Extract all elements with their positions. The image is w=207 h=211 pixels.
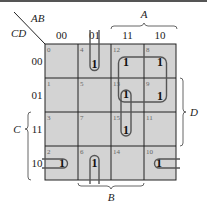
cell-index: 14	[113, 148, 121, 156]
cell-index: 7	[80, 114, 84, 122]
cell-index: 8	[146, 46, 150, 54]
cell-index: 6	[80, 148, 84, 156]
cell-index: 11	[146, 114, 153, 122]
cell-index: 5	[80, 80, 84, 88]
cell-index: 3	[47, 114, 51, 122]
col-header-10: 10	[155, 29, 167, 41]
col-header-11: 11	[122, 29, 133, 41]
row-header-00: 00	[32, 55, 44, 67]
label-b: B	[108, 191, 115, 203]
brace-b	[78, 183, 144, 189]
row-header-11: 11	[32, 123, 43, 135]
cell-index: 2	[47, 148, 51, 156]
brace-a	[111, 23, 177, 29]
cell-index: 13	[113, 80, 121, 88]
label-d: D	[189, 106, 198, 118]
col-header-00: 00	[56, 29, 68, 41]
cell-index: 15	[113, 114, 121, 122]
cell-value: 1	[92, 156, 98, 170]
label-cd: CD	[11, 27, 26, 39]
cell-value: 1	[123, 87, 129, 101]
row-header-10: 10	[32, 157, 44, 169]
cell-index: 9	[146, 80, 150, 88]
brace-c	[25, 112, 31, 180]
karnaugh-map: AB CD 00 01 11 10 00 01 11 10 0 4 12 8 1…	[0, 0, 207, 211]
label-a: A	[140, 8, 148, 20]
label-c: C	[13, 123, 21, 135]
cell-index: 4	[80, 46, 84, 54]
top-rule	[0, 0, 207, 2]
cell-index: 0	[47, 46, 51, 54]
brace-d	[180, 78, 186, 146]
cell-index: 1	[47, 80, 51, 88]
cell-value: 1	[157, 89, 163, 103]
cell-index: 10	[146, 148, 154, 156]
label-ab: AB	[30, 12, 45, 24]
cell-value: 1	[92, 57, 98, 71]
row-header-01: 01	[32, 89, 43, 101]
cell-index: 12	[113, 46, 121, 54]
